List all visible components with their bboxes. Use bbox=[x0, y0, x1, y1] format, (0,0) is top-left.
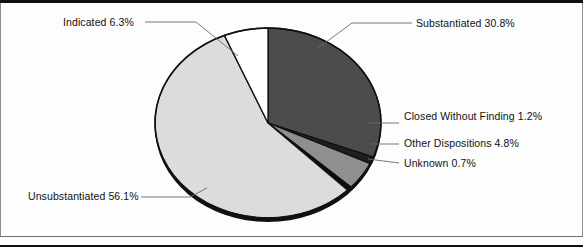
slice-label-closed-without-finding: Closed Without Finding 1.2% bbox=[404, 110, 542, 122]
slice-label-other-dispositions: Other Dispositions 4.8% bbox=[404, 137, 519, 149]
slice-label-substantiated: Substantiated 30.8% bbox=[416, 17, 515, 29]
slice-label-unsubstantiated: Unsubstantiated 56.1% bbox=[28, 190, 139, 202]
pie-slices bbox=[155, 28, 381, 218]
chart-figure: Indicated 6.3% Substantiated 30.8% Close… bbox=[0, 0, 583, 247]
slice-label-indicated: Indicated 6.3% bbox=[63, 16, 134, 28]
pie-chart bbox=[0, 0, 583, 247]
slice-label-unknown: Unknown 0.7% bbox=[404, 157, 476, 169]
